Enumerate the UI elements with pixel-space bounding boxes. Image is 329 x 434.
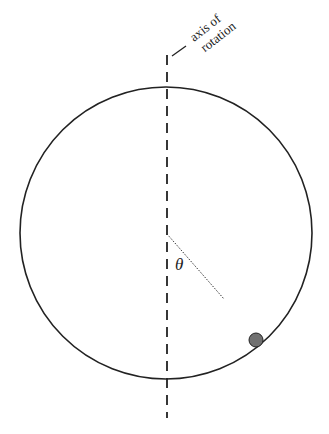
label-leader-line — [172, 46, 186, 56]
rotating-sphere-diagram: θ axis of rotation — [0, 0, 329, 434]
theta-label: θ — [175, 255, 183, 274]
axis-label: axis of rotation — [187, 6, 239, 56]
sphere-outline — [20, 87, 312, 379]
ball — [249, 333, 263, 347]
